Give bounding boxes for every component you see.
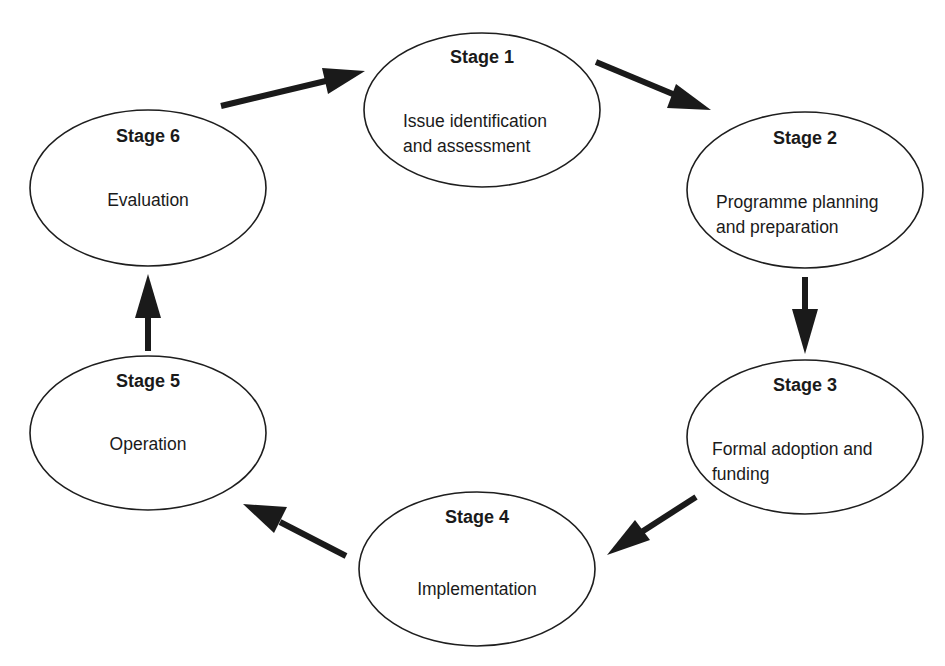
- stage-4-node: Stage 4 Implementation: [359, 492, 595, 646]
- arrow-stage-4-to-5-icon: [243, 504, 346, 556]
- stage-6-node: Stage 6 Evaluation: [30, 110, 266, 266]
- arrow-stage-5-to-6-icon: [135, 274, 161, 351]
- arrow-stage-1-to-2-icon: [596, 62, 711, 110]
- stage-4-title: Stage 4: [445, 507, 509, 527]
- stage-1-desc-line-1: Issue identification: [403, 111, 547, 131]
- stage-5-node: Stage 5 Operation: [30, 356, 266, 510]
- stage-3-node: Stage 3 Formal adoption and funding: [687, 360, 923, 514]
- stage-1-node: Stage 1 Issue identification and assessm…: [364, 33, 600, 187]
- stage-6-title: Stage 6: [116, 126, 180, 146]
- stage-cycle-diagram: Stage 1 Issue identification and assessm…: [0, 0, 945, 666]
- stage-2-node: Stage 2 Programme planning and preparati…: [687, 112, 923, 268]
- arrow-stage-6-to-1-icon: [221, 68, 365, 106]
- stage-2-desc-line-1: Programme planning: [716, 192, 878, 212]
- stage-1-desc-line-2: and assessment: [403, 136, 531, 156]
- stage-4-desc-line-1: Implementation: [417, 579, 537, 599]
- stage-5-title: Stage 5: [116, 371, 180, 391]
- stage-1-title: Stage 1: [450, 47, 514, 67]
- stage-2-desc-line-2: and preparation: [716, 217, 839, 237]
- stage-3-desc-line-2: funding: [712, 464, 769, 484]
- stage-3-title: Stage 3: [773, 375, 837, 395]
- arrow-stage-2-to-3-icon: [792, 277, 818, 354]
- stage-6-desc-line-1: Evaluation: [107, 190, 189, 210]
- stage-3-desc-line-1: Formal adoption and: [712, 439, 873, 459]
- stage-5-desc-line-1: Operation: [110, 434, 187, 454]
- arrow-stage-3-to-4-icon: [607, 497, 696, 555]
- stage-2-title: Stage 2: [773, 128, 837, 148]
